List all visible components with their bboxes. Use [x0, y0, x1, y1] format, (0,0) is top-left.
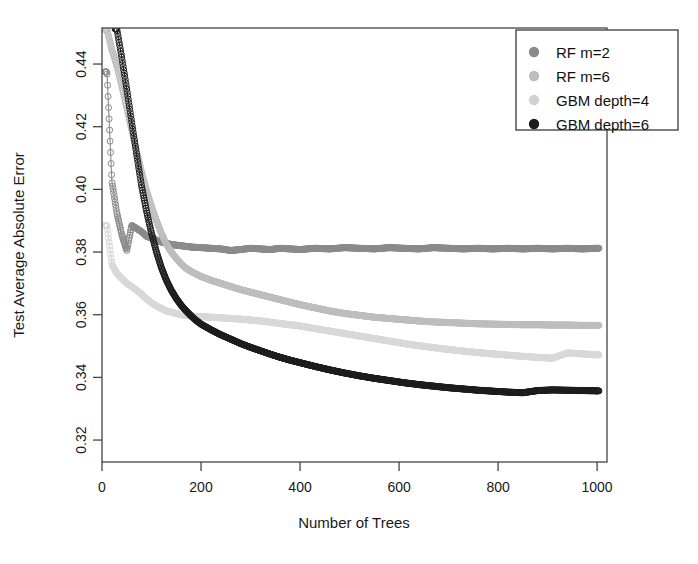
y-tick-label: 0.38 — [73, 238, 89, 265]
legend-marker-3 — [529, 119, 539, 129]
chart-legend[interactable]: RF m=2RF m=6GBM depth=4GBM depth=6 — [516, 30, 678, 133]
legend-label-3: GBM depth=6 — [556, 116, 649, 133]
scatter-plot: 02004006008001000 0.320.340.360.380.400.… — [0, 0, 698, 564]
legend-marker-2 — [529, 95, 539, 105]
legend-label-2: GBM depth=4 — [556, 92, 649, 109]
y-tick-label: 0.40 — [73, 176, 89, 203]
legend-marker-0 — [529, 47, 539, 57]
x-tick-label: 600 — [387, 479, 411, 495]
y-axis-title: Test Average Absolute Error — [10, 152, 27, 338]
x-axis-title: Number of Trees — [298, 514, 410, 531]
y-tick-label: 0.44 — [73, 50, 89, 77]
y-tick-label: 0.36 — [73, 301, 89, 328]
x-tick-label: 400 — [288, 479, 312, 495]
y-axis-ticks: 0.320.340.360.380.400.420.44 — [73, 50, 102, 453]
x-axis-ticks: 02004006008001000 — [98, 462, 613, 495]
x-tick-label: 1000 — [582, 479, 613, 495]
legend-label-0: RF m=2 — [556, 44, 610, 61]
chart-container: 02004006008001000 0.320.340.360.380.400.… — [0, 0, 698, 564]
legend-label-1: RF m=6 — [556, 68, 610, 85]
x-tick-label: 0 — [98, 479, 106, 495]
y-tick-label: 0.42 — [73, 113, 89, 140]
x-tick-label: 200 — [189, 479, 213, 495]
y-tick-label: 0.32 — [73, 426, 89, 453]
y-tick-label: 0.34 — [73, 364, 89, 391]
x-tick-label: 800 — [486, 479, 510, 495]
legend-marker-1 — [529, 71, 539, 81]
